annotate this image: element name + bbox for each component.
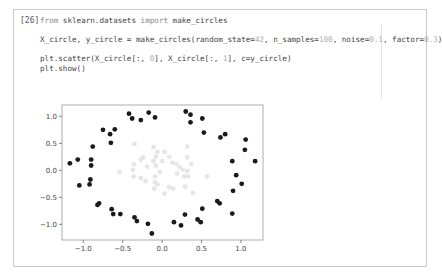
scatter-point-inner (167, 154, 172, 159)
scatter-point-outer (217, 201, 222, 206)
scatter-point-inner (138, 176, 143, 181)
scatter-point-inner (180, 167, 185, 172)
scatter-point-outer (200, 206, 205, 211)
scatter-point-outer (77, 183, 82, 188)
scatter-point-outer (223, 132, 228, 137)
y-tick-label: 0.0 (46, 167, 57, 175)
scatter-point-outer (87, 182, 92, 187)
y-tick-label: −0.5 (40, 194, 57, 202)
scatter-point-outer (239, 181, 244, 186)
scatter-point-inner (153, 174, 158, 179)
scatter-point-outer (146, 221, 151, 226)
y-tick-label: −1.0 (40, 221, 57, 229)
scatter-point-inner (143, 179, 148, 184)
scatter-point-inner (183, 184, 188, 189)
code-text: ) (438, 35, 442, 44)
scatter-point-outer (188, 120, 193, 125)
scatter-point-inner (132, 141, 137, 146)
scatter-point-outer (218, 135, 223, 140)
scatter-point-outer (118, 212, 123, 217)
scatter-point-outer (127, 111, 132, 116)
scatter-point-outer (179, 223, 184, 228)
scatter-point-inner (138, 157, 143, 162)
scatter-point-outer (108, 140, 113, 145)
scatter-point-outer (97, 201, 102, 206)
scatter-point-inner (117, 170, 122, 175)
scatter-point-outer (149, 231, 154, 236)
scatter-point-outer (67, 161, 72, 166)
scatter-point-inner (185, 144, 190, 149)
scatter-point-outer (188, 112, 193, 117)
scatter-point-inner (131, 167, 136, 172)
scatter-point-outer (109, 207, 114, 212)
scatter-point-outer (134, 219, 139, 224)
scatter-point-inner (152, 186, 157, 191)
scatter-point-inner (175, 171, 180, 176)
scatter-point-inner (155, 182, 160, 187)
scatter-point-outer (153, 115, 158, 120)
x-tick-label: −1.0 (75, 245, 92, 253)
scatter-point-inner (185, 155, 190, 160)
scatter-point-inner (153, 154, 158, 159)
scatter-point-outer (89, 163, 94, 168)
scatter-point-inner (153, 163, 158, 168)
scatter-point-outer (253, 159, 258, 164)
scatter-point-inner (155, 150, 160, 155)
scatter-point-outer (111, 212, 116, 217)
scatter-point-outer (101, 127, 106, 132)
scatter-point-inner (160, 159, 165, 164)
scatter-point-outer (108, 132, 113, 137)
scatter-point-outer (88, 177, 93, 182)
y-tick-label: 0.5 (46, 140, 57, 148)
scatter-point-outer (230, 211, 235, 216)
scatter-point-outer (130, 116, 135, 121)
scatter-point-inner (189, 161, 194, 166)
scatter-point-inner (151, 159, 156, 164)
scatter-point-inner (186, 174, 191, 179)
scatter-point-inner (145, 164, 150, 169)
scatter-point-outer (200, 116, 205, 121)
scatter-point-outer (183, 212, 188, 217)
scatter-point-outer (89, 157, 94, 162)
x-tick-label: 0.5 (196, 245, 207, 253)
scatter-point-inner (151, 145, 156, 150)
scatter-point-outer (201, 130, 206, 135)
x-tick-label: −0.5 (114, 245, 131, 253)
scatter-point-outer (198, 220, 203, 225)
scatter-point-outer (243, 137, 248, 142)
scatter-point-inner (205, 174, 210, 179)
scatter-point-outer (234, 173, 239, 178)
scatter-point-inner (131, 174, 136, 179)
scatter-point-outer (172, 220, 177, 225)
scatter-point-inner (131, 162, 136, 167)
scatter-point-outer (242, 147, 247, 152)
scatter-point-outer (146, 110, 151, 115)
scatter-point-inner (190, 191, 195, 196)
scatter-point-outer (231, 188, 236, 193)
x-tick-label: 1.0 (235, 245, 246, 253)
axes-frame (62, 105, 263, 240)
scatter-point-outer (230, 159, 235, 164)
scatter-point-outer (112, 127, 117, 132)
scatter-point-outer (183, 109, 188, 114)
scatter-point-outer (90, 144, 95, 149)
scatter-point-inner (157, 170, 162, 175)
x-tick-label: 0.0 (157, 245, 168, 253)
scatter-point-inner (162, 150, 167, 155)
scatter-point-inner (171, 186, 176, 191)
scatter-point-inner (185, 168, 190, 173)
scatter-point-outer (75, 157, 80, 162)
scatter-point-outer (138, 118, 143, 123)
scatter-point-inner (162, 191, 167, 196)
y-tick-label: 1.0 (46, 113, 57, 121)
